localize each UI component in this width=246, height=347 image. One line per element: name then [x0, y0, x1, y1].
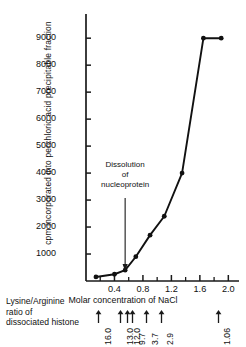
x-tick-label: 2.0 [213, 284, 243, 294]
annotation-line-1: Dissolution [65, 160, 185, 170]
x-tick-label: 1.2 [156, 284, 186, 294]
lysine-arginine-caption: Lysine/Arginine ratio of dissociated his… [6, 296, 79, 328]
x-tick-label: 0.4 [99, 284, 129, 294]
annotation-line-2: of [65, 170, 185, 180]
caption-line-3: dissociated histone [6, 317, 79, 328]
caption-line-1: Lysine/Arginine [6, 296, 79, 307]
caption-line-2: ratio of [6, 307, 79, 318]
ratio-arrow-icon [129, 310, 136, 323]
ratio-value-label: 9.7 [137, 333, 147, 345]
ratio-arrow-icon [158, 310, 165, 323]
dissolution-annotation: Dissolution of nucleoprotein [65, 160, 185, 190]
ratio-value-label: 16.0 [103, 328, 113, 345]
ratio-arrow-icon [143, 310, 150, 323]
ratio-arrow-icon [95, 310, 102, 323]
x-tick-label: 0.8 [128, 284, 158, 294]
ratio-value-label: 2.9 [165, 333, 175, 345]
x-tick-label: 1.6 [185, 284, 215, 294]
ratio-arrow-icon [215, 310, 222, 323]
figure-root: cpm incorporated into perchloric acid pr… [0, 0, 246, 347]
ratio-value-label: 1.06 [222, 328, 232, 345]
annotation-line-3: nucleoprotein [65, 180, 185, 190]
ratio-value-label: 3.7 [150, 333, 160, 345]
